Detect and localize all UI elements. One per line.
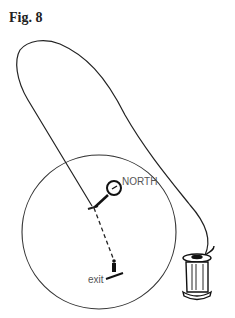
diagram: NORTH exit — [0, 0, 235, 318]
north-label: NORTH — [122, 176, 157, 187]
thread-spool-icon — [183, 246, 214, 300]
person-icon — [106, 259, 123, 279]
thread-loop — [17, 41, 208, 255]
exit-label: exit — [88, 274, 104, 285]
dashed-path — [94, 208, 113, 258]
compass-icon — [95, 181, 121, 207]
